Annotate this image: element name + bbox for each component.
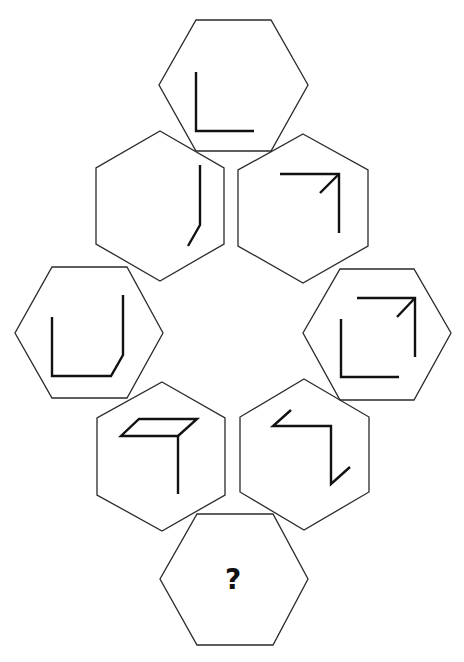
u-shape-figure — [52, 295, 123, 376]
z-shape-figure — [273, 410, 350, 484]
hexagon-lower-left — [97, 382, 225, 531]
hexagon-upper-right — [238, 134, 368, 283]
hexagon-lower-right — [240, 379, 369, 530]
hexagon-upper-left — [96, 131, 224, 281]
question-mark: ? — [225, 563, 241, 596]
hexagon-top — [159, 20, 308, 151]
hexagon-bottom: ? — [160, 514, 308, 645]
hexagon-middle-right — [303, 269, 451, 400]
hook-line-figure — [188, 165, 200, 246]
l-shape-figure — [196, 72, 254, 131]
l-and-arrow-figure — [341, 319, 399, 377]
hexagon-middle-left — [15, 267, 163, 398]
parallelogram-figure — [121, 419, 197, 436]
puzzle-diagram: ? — [0, 0, 464, 662]
